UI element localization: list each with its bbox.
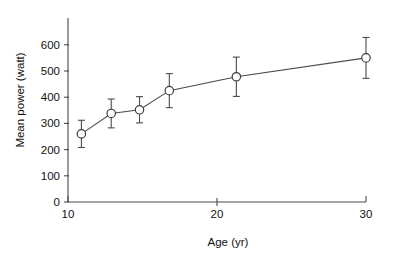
x-axis: 102030 [62, 196, 373, 220]
y-axis-tick-label: 200 [41, 144, 60, 156]
y-axis-tick-label: 0 [54, 196, 60, 208]
y-axis-title: Mean power (watt) [14, 52, 26, 147]
series-connecting-line [81, 58, 366, 134]
y-axis-tick-label: 300 [41, 117, 60, 129]
data-point-marker [77, 130, 85, 138]
x-axis-tick-label: 10 [62, 208, 75, 220]
chart-figure: 0100200300400500600 102030 Age (yr) Mean… [0, 0, 393, 255]
y-axis-tick-label: 600 [41, 39, 60, 51]
y-axis-tick-label: 400 [41, 91, 60, 103]
y-axis-tick-label: 500 [41, 65, 60, 77]
data-point-marker [135, 106, 143, 114]
data-point-group [135, 97, 143, 123]
data-point-group [232, 57, 240, 96]
scatter-plot-with-error-bars: 0100200300400500600 102030 Age (yr) Mean… [0, 0, 393, 255]
data-point-marker [362, 54, 370, 62]
data-point-group [77, 120, 85, 147]
x-axis-tick-label: 20 [211, 208, 224, 220]
data-point-group [165, 74, 173, 108]
data-point-marker [232, 73, 240, 81]
data-point-marker [165, 86, 173, 94]
y-axis-tick-label: 100 [41, 170, 60, 182]
x-axis-tick-label: 30 [360, 208, 373, 220]
data-series [77, 37, 370, 147]
data-point-group [107, 99, 115, 128]
data-point-marker [107, 109, 115, 117]
x-axis-title: Age (yr) [208, 236, 249, 248]
y-axis: 0100200300400500600 [41, 18, 69, 208]
data-point-group [362, 37, 370, 78]
